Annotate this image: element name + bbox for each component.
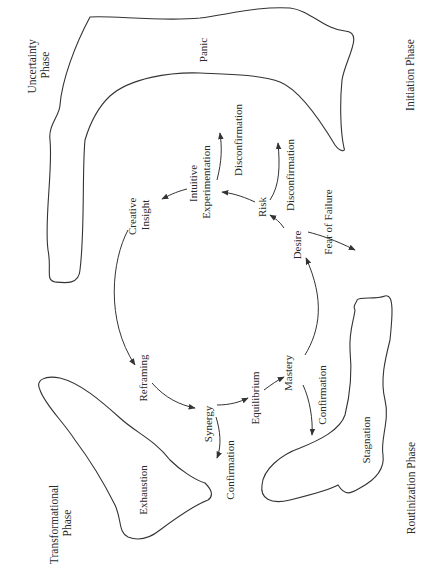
initiation-phase-label: Initiation Phase	[404, 39, 416, 111]
uncertainty-phase-label: Uncertainty Phase	[26, 36, 51, 93]
confirmation-mastery-label: Confirmation	[316, 365, 328, 425]
desire-label: Desire	[291, 231, 303, 260]
stagnation-label: Stagnation	[360, 416, 372, 464]
mastery-label: Mastery	[282, 354, 294, 391]
arrow-disconfirmation-lower	[270, 143, 279, 200]
arrow-equilibrium-to-mastery	[264, 377, 284, 390]
creative-insight-label: Creative Insight	[126, 195, 151, 235]
reframing-label: Reframing	[137, 354, 149, 402]
arrow-creative-to-reframing	[114, 230, 135, 365]
arrow-mastery-to-desire	[305, 258, 318, 355]
exhaustion-label: Exhaustion	[137, 465, 149, 515]
synergy-label: Synergy	[202, 405, 214, 442]
arrow-disconfirmation-upper	[217, 133, 221, 180]
transformational-phase-label: Transformational Phase	[48, 482, 73, 564]
intuitive-experimentation-label: Intuitive Experimentation	[187, 145, 212, 219]
confirmation-synergy-label: Confirmation	[224, 440, 236, 500]
equilibrium-label: Equilibrium	[249, 371, 261, 425]
arrow-risk-to-experimentation	[222, 192, 255, 202]
arrow-confirmation-mastery	[303, 385, 312, 435]
routinization-phase-label: Routinization Phase	[405, 442, 417, 534]
arrow-reframing-to-synergy	[152, 383, 195, 408]
fear-of-failure-label: Fear of Failure	[322, 189, 334, 254]
renewal-cycle-diagram: Uncertainty Phase Initiation Phase Trans…	[0, 0, 421, 586]
panic-label: Panic	[197, 38, 209, 63]
arrow-confirmation-synergy	[216, 417, 220, 458]
arrow-experimentation-to-creative	[162, 189, 187, 199]
disconfirmation-lower-label: Disconfirmation	[284, 138, 296, 211]
risk-label: Risk	[256, 196, 268, 217]
arrow-desire-to-risk	[270, 215, 284, 228]
arrow-synergy-to-equilibrium	[217, 398, 248, 405]
disconfirmation-upper-label: Disconfirmation	[232, 103, 244, 176]
